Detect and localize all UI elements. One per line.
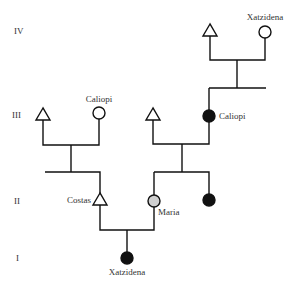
couple-gen3-right (153, 88, 209, 195)
generation-label-ii: II (14, 196, 20, 206)
affected-female-circle-icon (203, 194, 215, 206)
label-costas: Costas (67, 195, 92, 205)
male-triangle-icon (93, 193, 107, 205)
label-maria: Maria (158, 207, 180, 217)
marriage-line-gen4 (210, 36, 265, 60)
couple-gen4 (209, 36, 266, 88)
generation-label-iii: III (12, 110, 21, 120)
male-triangle-icon (36, 108, 50, 120)
label-xatzidena-gen1: Xatzidena (109, 267, 145, 277)
label-caliopi-left: Caliopi (86, 94, 113, 104)
marriage-line-gen2 (100, 205, 154, 230)
carrier-female-circle-icon (148, 195, 160, 207)
female-circle-icon (93, 107, 105, 119)
couple-gen2 (100, 205, 154, 252)
marriage-line-gen3-left (43, 119, 99, 145)
pedigree-chart: IV III II I Xatzidena Caliopi Caliopi Co… (0, 0, 297, 288)
couple-gen3-left (43, 119, 100, 205)
affected-female-circle-icon (121, 252, 133, 264)
affected-female-circle-icon (203, 110, 215, 122)
male-triangle-icon (146, 108, 160, 120)
label-caliopi-right: Caliopi (219, 111, 246, 121)
male-triangle-icon (203, 24, 217, 36)
marriage-line-gen3-right (153, 120, 209, 144)
female-circle-icon (259, 26, 271, 38)
generation-label-iv: IV (14, 26, 24, 36)
sibship-line-gen3-right (154, 172, 209, 194)
generation-label-i: I (16, 253, 19, 263)
label-xatzidena-gen4: Xatzidena (247, 12, 283, 22)
